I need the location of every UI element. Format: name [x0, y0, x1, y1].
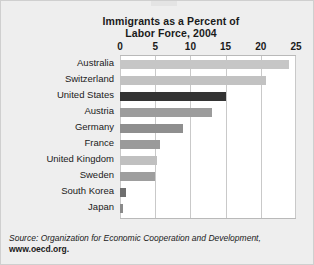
category-label-sweden: Sweden — [80, 170, 114, 180]
bar-germany — [120, 124, 183, 133]
chart-title-line-2: Labor Force, 2004 — [61, 27, 281, 39]
category-label-australia: Australia — [77, 58, 114, 68]
x-tick-label-0: 0 — [117, 41, 123, 52]
bar-row — [120, 136, 296, 152]
category-label-france: France — [84, 138, 114, 148]
bar-row — [120, 152, 296, 168]
bar-sweden — [120, 172, 155, 181]
category-row: Sweden — [1, 167, 117, 183]
category-row: Australia — [1, 55, 117, 71]
bar-austria — [120, 108, 212, 117]
chart-title: Immigrants as a Percent of Labor Force, … — [61, 15, 281, 39]
y-axis-category-labels: AustraliaSwitzerlandUnited StatesAustria… — [1, 55, 117, 219]
bar-switzerland — [120, 76, 266, 85]
bar-united-kingdom — [120, 156, 157, 165]
category-label-united-states: United States — [57, 90, 114, 100]
category-label-japan: Japan — [88, 202, 114, 212]
plot-area — [120, 55, 296, 219]
x-tick-label-5: 5 — [152, 41, 158, 52]
category-row: Austria — [1, 103, 117, 119]
bar-row — [120, 56, 296, 72]
bar-japan — [120, 204, 123, 213]
category-label-austria: Austria — [84, 106, 114, 116]
source-url: www.oecd.org. — [9, 244, 69, 254]
category-row: Japan — [1, 199, 117, 215]
category-row: United Kingdom — [1, 151, 117, 167]
bar-south-korea — [120, 188, 126, 197]
category-row: South Korea — [1, 183, 117, 199]
bar-france — [120, 140, 160, 149]
bar-row — [120, 88, 296, 104]
bar-row — [120, 184, 296, 200]
bar-australia — [120, 60, 289, 69]
x-axis-tick-labels: 0510152025 — [1, 41, 314, 55]
chart-title-line-1: Immigrants as a Percent of — [61, 15, 281, 27]
bar-row — [120, 104, 296, 120]
bar-rows — [120, 56, 296, 218]
x-tick-label-25: 25 — [290, 41, 301, 52]
category-row: United States — [1, 87, 117, 103]
chart-figure: Immigrants as a Percent of Labor Force, … — [0, 0, 314, 265]
bar-row — [120, 200, 296, 216]
bar-row — [120, 72, 296, 88]
category-label-south-korea: South Korea — [61, 186, 114, 196]
bar-united-states — [120, 92, 226, 101]
category-label-united-kingdom: United Kingdom — [46, 154, 114, 164]
category-label-germany: Germany — [75, 122, 114, 132]
source-text: Source: Organization for Economic Cooper… — [9, 233, 261, 243]
category-label-switzerland: Switzerland — [65, 74, 114, 84]
bar-row — [120, 120, 296, 136]
category-row: Switzerland — [1, 71, 117, 87]
page-crop-artifact — [151, 1, 177, 6]
x-tick-label-10: 10 — [185, 41, 196, 52]
category-row: Germany — [1, 119, 117, 135]
bar-row — [120, 168, 296, 184]
x-tick-label-15: 15 — [220, 41, 231, 52]
category-row: France — [1, 135, 117, 151]
source-note: Source: Organization for Economic Cooper… — [9, 233, 309, 255]
x-tick-label-20: 20 — [255, 41, 266, 52]
